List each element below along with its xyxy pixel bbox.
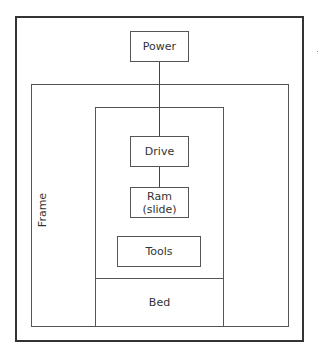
drive-node: Drive [130, 136, 189, 167]
tools-label: Tools [145, 245, 172, 258]
drive-label: Drive [145, 145, 174, 158]
stray-dot [317, 51, 318, 52]
ram-node: Ram (slide) [130, 187, 189, 218]
bed-label: Bed [149, 296, 170, 309]
tools-node: Tools [117, 236, 201, 267]
ram-label: Ram [142, 190, 176, 203]
power-label: Power [143, 40, 176, 53]
connector-power-drive [159, 62, 160, 136]
frame-label: Frame [36, 193, 49, 227]
bed-node: Bed [95, 278, 224, 327]
power-node: Power [130, 31, 189, 62]
ram-sublabel: (slide) [142, 203, 176, 216]
connector-drive-ram [159, 167, 160, 187]
